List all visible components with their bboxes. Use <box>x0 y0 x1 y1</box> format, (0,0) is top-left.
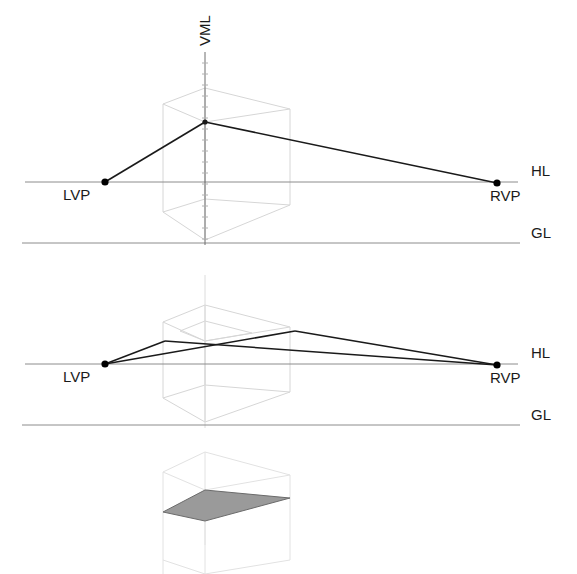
right-vanishing-point-1[interactable] <box>493 179 500 186</box>
cube-inner-top-face <box>180 321 252 341</box>
panel-1-group: HL GL LVP RVP VML <box>22 15 551 245</box>
label-rvp-2: RVP <box>490 369 521 386</box>
panel-2-group: HL GL LVP RVP <box>22 275 551 428</box>
cube-outer-bottom-face <box>163 385 290 422</box>
projection-upper-right-to-rvp-2 <box>295 331 497 365</box>
diagram-canvas: HL GL LVP RVP VML <box>0 0 577 574</box>
panel-1-cube <box>163 88 290 240</box>
label-vml-1: VML <box>196 15 213 46</box>
cube-top-face <box>163 88 290 122</box>
cube-lower-edge-3 <box>163 560 290 574</box>
projection-lvp-to-upper-left-2 <box>105 341 165 364</box>
cube-bottom-face <box>163 199 290 240</box>
label-gl-2: GL <box>531 406 551 423</box>
left-vanishing-point-1[interactable] <box>101 178 108 185</box>
left-vanishing-point-2[interactable] <box>101 360 108 367</box>
vml-axis-1 <box>202 52 208 245</box>
label-hl-1: HL <box>531 162 550 179</box>
cube-upper-top-face-3 <box>163 452 290 490</box>
apex-point-1 <box>202 119 207 124</box>
label-lvp-2: LVP <box>63 368 90 385</box>
label-gl-1: GL <box>531 224 551 241</box>
projection-apex-to-rvp-1 <box>205 122 497 183</box>
projection-apex-to-lvp-1 <box>105 122 205 182</box>
right-vanishing-point-2[interactable] <box>493 361 500 368</box>
projection-lvp-to-upper-right-2 <box>105 331 295 364</box>
projection-upper-left-to-rvp-2 <box>165 341 497 365</box>
label-rvp-1: RVP <box>490 187 521 204</box>
perspective-construction-diagram: HL GL LVP RVP VML <box>0 0 577 574</box>
shaded-measured-plane <box>163 490 290 521</box>
label-lvp-1: LVP <box>63 186 90 203</box>
panel-3-group <box>163 452 290 574</box>
label-hl-2: HL <box>531 344 550 361</box>
